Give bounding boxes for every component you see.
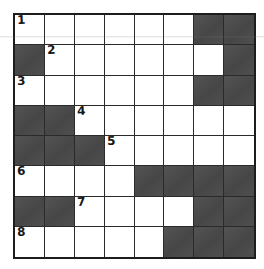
crossword-open-cell[interactable] bbox=[105, 227, 135, 257]
crossword-block-cell bbox=[45, 136, 75, 166]
crossword-block-cell bbox=[224, 15, 254, 45]
cell-number: 3 bbox=[17, 76, 26, 88]
crossword-open-cell[interactable] bbox=[135, 106, 165, 136]
crossword-open-cell[interactable] bbox=[45, 15, 75, 45]
crossword-open-cell[interactable] bbox=[164, 106, 194, 136]
crossword-open-cell[interactable] bbox=[75, 166, 105, 196]
crossword-block-cell bbox=[194, 166, 224, 196]
crossword-open-cell[interactable] bbox=[75, 45, 105, 75]
crossword-open-cell[interactable]: 4 bbox=[75, 106, 105, 136]
cell-number: 4 bbox=[77, 106, 86, 118]
crossword-open-cell[interactable] bbox=[75, 15, 105, 45]
crossword-block-cell bbox=[224, 166, 254, 196]
crossword-block-cell bbox=[164, 166, 194, 196]
crossword-block-cell bbox=[194, 15, 224, 45]
crossword-block-cell bbox=[15, 106, 45, 136]
crossword-open-cell[interactable] bbox=[224, 106, 254, 136]
crossword-block-cell bbox=[75, 136, 105, 166]
crossword-block-cell bbox=[164, 227, 194, 257]
crossword-open-cell[interactable] bbox=[45, 166, 75, 196]
crossword-block-cell bbox=[15, 45, 45, 75]
cell-number: 6 bbox=[17, 166, 26, 178]
crossword-open-cell[interactable] bbox=[105, 15, 135, 45]
crossword-open-cell[interactable]: 3 bbox=[15, 76, 45, 106]
crossword-open-cell[interactable] bbox=[194, 106, 224, 136]
crossword-open-cell[interactable]: 8 bbox=[15, 227, 45, 257]
crossword-open-cell[interactable]: 6 bbox=[15, 166, 45, 196]
crossword-open-cell[interactable] bbox=[105, 197, 135, 227]
crossword-open-cell[interactable] bbox=[164, 45, 194, 75]
cell-number: 2 bbox=[47, 45, 56, 57]
crossword-open-cell[interactable] bbox=[45, 227, 75, 257]
crossword-block-cell bbox=[135, 166, 165, 196]
crossword-block-cell bbox=[15, 197, 45, 227]
crossword-block-cell bbox=[224, 227, 254, 257]
crossword-open-cell[interactable] bbox=[164, 15, 194, 45]
crossword-block-cell bbox=[194, 197, 224, 227]
crossword-block-cell bbox=[194, 76, 224, 106]
cell-number: 8 bbox=[17, 227, 26, 239]
crossword-block-cell bbox=[224, 76, 254, 106]
crossword-open-cell[interactable] bbox=[164, 197, 194, 227]
crossword-open-cell[interactable] bbox=[105, 76, 135, 106]
crossword-open-cell[interactable] bbox=[135, 15, 165, 45]
cell-number: 5 bbox=[107, 136, 116, 148]
crossword-block-cell bbox=[224, 197, 254, 227]
crossword-open-cell[interactable]: 5 bbox=[105, 136, 135, 166]
crossword-open-cell[interactable]: 7 bbox=[75, 197, 105, 227]
crossword-open-cell[interactable] bbox=[75, 227, 105, 257]
crossword-open-cell[interactable] bbox=[45, 76, 75, 106]
crossword-open-cell[interactable] bbox=[105, 166, 135, 196]
crossword-open-cell[interactable] bbox=[194, 136, 224, 166]
crossword-open-cell[interactable] bbox=[224, 136, 254, 166]
crossword-open-cell[interactable] bbox=[75, 76, 105, 106]
crossword-open-cell[interactable] bbox=[164, 136, 194, 166]
crossword-open-cell[interactable] bbox=[105, 106, 135, 136]
crossword-block-cell bbox=[194, 227, 224, 257]
cell-number: 1 bbox=[17, 15, 26, 27]
crossword-open-cell[interactable] bbox=[135, 45, 165, 75]
crossword-puzzle: 12345678 bbox=[13, 13, 256, 259]
crossword-block-cell bbox=[45, 106, 75, 136]
cell-number: 7 bbox=[77, 197, 86, 209]
crossword-open-cell[interactable] bbox=[135, 136, 165, 166]
crossword-block-cell bbox=[45, 197, 75, 227]
crossword-open-cell[interactable] bbox=[164, 76, 194, 106]
crossword-grid[interactable]: 12345678 bbox=[13, 13, 256, 259]
crossword-block-cell bbox=[224, 45, 254, 75]
crossword-open-cell[interactable] bbox=[135, 227, 165, 257]
crossword-open-cell[interactable]: 2 bbox=[45, 45, 75, 75]
crossword-open-cell[interactable] bbox=[135, 76, 165, 106]
crossword-open-cell[interactable]: 1 bbox=[15, 15, 45, 45]
crossword-open-cell[interactable] bbox=[135, 197, 165, 227]
crossword-open-cell[interactable] bbox=[105, 45, 135, 75]
crossword-open-cell[interactable] bbox=[194, 45, 224, 75]
crossword-block-cell bbox=[15, 136, 45, 166]
